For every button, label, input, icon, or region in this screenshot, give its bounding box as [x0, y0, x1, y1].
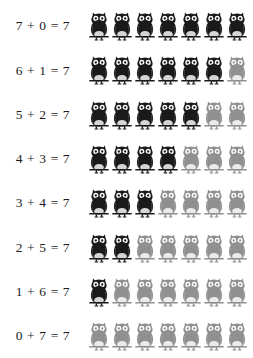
owl-icon-light [88, 321, 110, 351]
owl-counter-group [86, 55, 253, 85]
equation-text: 2 + 5 = 7 [0, 241, 86, 255]
owl-icon-light [226, 277, 248, 307]
equation-text: 1 + 6 = 7 [0, 285, 86, 299]
owl-icon-dark [134, 188, 156, 218]
owl-icon-light [134, 233, 156, 263]
owl-icon-light [203, 100, 225, 130]
owl-icon-dark [88, 233, 110, 263]
owl-icon-dark [88, 55, 110, 85]
equation-text: 0 + 7 = 7 [0, 329, 86, 343]
owl-icon-light [226, 100, 248, 130]
owl-icon-dark [111, 55, 133, 85]
owl-icon-dark [88, 144, 110, 174]
owl-icon-light [134, 277, 156, 307]
equation-text: 3 + 4 = 7 [0, 196, 86, 210]
owl-icon-dark [203, 55, 225, 85]
fact-row: 3 + 4 = 7 [0, 181, 253, 225]
owl-icon-dark [111, 11, 133, 41]
equation-text: 5 + 2 = 7 [0, 108, 86, 122]
owl-icon-dark [157, 11, 179, 41]
owl-icon-dark [111, 188, 133, 218]
owl-icon-light [157, 188, 179, 218]
owl-icon-dark [157, 144, 179, 174]
owl-icon-light [180, 321, 202, 351]
owl-icon-dark [226, 11, 248, 41]
owl-icon-light [157, 321, 179, 351]
owl-icon-light [226, 188, 248, 218]
owl-icon-dark [180, 55, 202, 85]
owl-icon-dark [134, 100, 156, 130]
owl-icon-light [134, 321, 156, 351]
owl-counter-group [86, 233, 253, 263]
fact-row: 0 + 7 = 7 [0, 314, 253, 358]
fact-row: 4 + 3 = 7 [0, 137, 253, 181]
owl-counter-group [86, 321, 253, 351]
fact-row: 2 + 5 = 7 [0, 226, 253, 270]
owl-icon-light [203, 233, 225, 263]
owl-counter-group [86, 11, 253, 41]
owl-counter-group [86, 188, 253, 218]
owl-icon-dark [157, 55, 179, 85]
fact-row: 6 + 1 = 7 [0, 48, 253, 92]
owl-counter-group [86, 277, 253, 307]
owl-icon-light [111, 321, 133, 351]
owl-icon-dark [180, 11, 202, 41]
owl-icon-dark [88, 11, 110, 41]
owl-icon-dark [134, 11, 156, 41]
owl-icon-light [203, 277, 225, 307]
owl-icon-dark [157, 100, 179, 130]
owl-icon-dark [88, 188, 110, 218]
owl-icon-dark [111, 233, 133, 263]
owl-icon-light [111, 277, 133, 307]
owl-icon-light [203, 144, 225, 174]
owl-icon-light [157, 277, 179, 307]
owl-icon-light [203, 321, 225, 351]
fact-row: 5 + 2 = 7 [0, 93, 253, 137]
equation-text: 7 + 0 = 7 [0, 19, 86, 33]
equation-text: 4 + 3 = 7 [0, 152, 86, 166]
owl-icon-dark [203, 11, 225, 41]
fact-row: 7 + 0 = 7 [0, 4, 253, 48]
owl-icon-light [180, 233, 202, 263]
owl-icon-light [180, 277, 202, 307]
owl-icon-light [226, 55, 248, 85]
owl-icon-dark [88, 100, 110, 130]
equation-text: 6 + 1 = 7 [0, 64, 86, 78]
owl-icon-dark [180, 100, 202, 130]
owl-icon-light [157, 233, 179, 263]
fact-row: 1 + 6 = 7 [0, 270, 253, 314]
owl-icon-light [180, 144, 202, 174]
owl-icon-dark [111, 144, 133, 174]
owl-icon-dark [134, 55, 156, 85]
owl-icon-light [226, 144, 248, 174]
owl-icon-light [180, 188, 202, 218]
owl-counter-group [86, 144, 253, 174]
worksheet-page: 7 + 0 = 76 + 1 = 75 + 2 = 74 + 3 = 73 + … [0, 0, 253, 358]
owl-icon-light [226, 321, 248, 351]
owl-icon-light [203, 188, 225, 218]
owl-counter-group [86, 100, 253, 130]
owl-icon-dark [88, 277, 110, 307]
owl-icon-light [226, 233, 248, 263]
owl-icon-dark [111, 100, 133, 130]
owl-icon-dark [134, 144, 156, 174]
